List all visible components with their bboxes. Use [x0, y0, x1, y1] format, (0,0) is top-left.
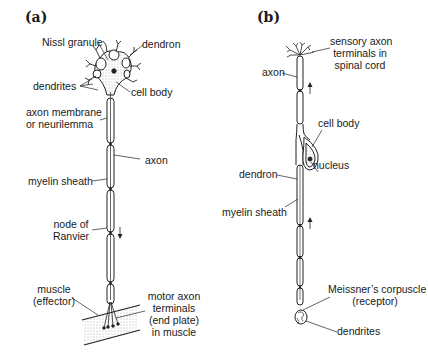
label-sensory-line1: sensory axon [330, 35, 390, 47]
sensory-axon-terminals [286, 42, 314, 57]
label-meissners-corpuscle: Meissner’s corpuscle (receptor) [328, 283, 422, 307]
label-sensory-line2: terminals in [330, 47, 390, 59]
sensory-dendron [297, 165, 303, 305]
motor-axon [107, 92, 114, 304]
label-motor-line1: motor axon [146, 290, 202, 302]
label-nissl-granule: Nissl granule [42, 36, 103, 48]
label-node-line2: Ranvier [48, 230, 94, 242]
label-motor-line4: in muscle [146, 326, 202, 338]
label-axon-membrane-line2: or neurilemma [26, 118, 102, 130]
label-dendron-a: dendron [142, 38, 181, 50]
label-node-of-ranvier: node of Ranvier [48, 218, 94, 242]
label-myelin-sheath-a: myelin sheath [28, 175, 93, 187]
label-dendrites-b: dendrites [337, 325, 380, 337]
label-motor-line2: terminals [146, 302, 202, 314]
label-motor-line3: (end plate) [146, 314, 202, 326]
label-dendron-b: dendron [239, 168, 278, 180]
label-muscle-effector: muscle (effector) [33, 283, 75, 307]
impulse-arrow-down-icon [118, 227, 123, 239]
label-muscle-line2: (effector) [33, 295, 75, 307]
label-axon-b: axon [262, 66, 285, 78]
label-sensory-line3: spinal cord [330, 59, 390, 71]
label-nucleus: nucleus [313, 159, 349, 171]
muscle-effector [82, 305, 140, 345]
label-node-line1: node of [48, 218, 94, 230]
label-myelin-sheath-b: myelin sheath [222, 206, 287, 218]
label-meissner-line2: (receptor) [328, 295, 422, 307]
motor-cell-body [93, 50, 131, 95]
label-axon-membrane-line1: axon membrane [26, 106, 102, 118]
panel-a-label: (a) [25, 9, 47, 25]
label-axon-a: axon [145, 154, 168, 166]
label-axon-membrane: axon membrane or neurilemma [26, 106, 102, 130]
panel-b-label: (b) [257, 9, 280, 25]
label-cell-body-a: cell body [131, 86, 172, 98]
label-muscle-line1: muscle [33, 283, 75, 295]
meissners-corpuscle [295, 310, 307, 324]
label-sensory-axon-terminals: sensory axon terminals in spinal cord [330, 35, 390, 71]
label-dendrites-a: dendrites [33, 80, 76, 92]
label-meissner-line1: Meissner’s corpuscle [328, 283, 422, 295]
label-cell-body-b: cell body [318, 117, 359, 129]
label-motor-axon-terminals: motor axon terminals (end plate) in musc… [146, 290, 202, 338]
